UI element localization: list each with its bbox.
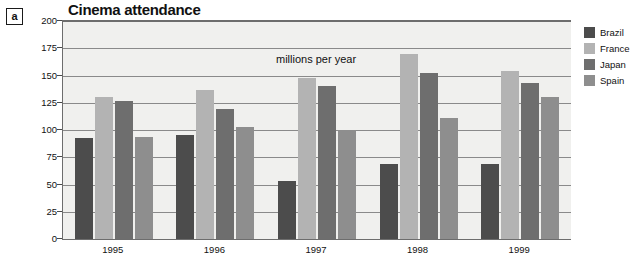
bar <box>420 73 438 239</box>
y-axis-tick-mark <box>57 75 62 76</box>
bar <box>115 101 133 239</box>
bar <box>318 86 336 239</box>
gridline <box>63 103 571 104</box>
bar <box>216 109 234 239</box>
bar <box>400 54 418 239</box>
legend-item-label: Brazil <box>600 27 624 38</box>
legend-swatch-icon <box>584 75 595 86</box>
gridline <box>63 76 571 77</box>
x-axis-group-label: 1998 <box>407 244 428 255</box>
bar <box>298 78 316 239</box>
legend-swatch-icon <box>584 59 595 70</box>
y-axis-tick-mark <box>57 47 62 48</box>
legend-swatch-icon <box>584 27 595 38</box>
legend-item-label: Japan <box>600 59 626 70</box>
bar <box>338 130 356 239</box>
y-axis-tick-label: 0 <box>52 233 57 244</box>
bar <box>501 71 519 239</box>
bar <box>481 164 499 239</box>
gridline <box>63 48 571 49</box>
x-axis-group-label: 1999 <box>509 244 530 255</box>
bar <box>440 118 458 239</box>
legend-swatch-icon <box>584 43 595 54</box>
gridline <box>63 21 571 22</box>
bar <box>75 138 93 239</box>
figure-label: a <box>6 8 23 25</box>
y-axis-tick-mark <box>57 184 62 185</box>
y-axis-tick-label: 100 <box>41 124 57 135</box>
y-axis-tick-label: 75 <box>46 151 57 162</box>
y-axis-tick-label: 50 <box>46 178 57 189</box>
x-axis-group-label: 1996 <box>204 244 225 255</box>
chart-annotation: millions per year <box>276 53 356 65</box>
legend: BrazilFranceJapanSpain <box>584 25 630 89</box>
legend-item-label: France <box>600 43 630 54</box>
y-axis-tick-label: 125 <box>41 96 57 107</box>
y-axis-tick-mark <box>57 102 62 103</box>
bar <box>236 127 254 239</box>
y-axis-tick-mark <box>57 156 62 157</box>
bar <box>541 97 559 239</box>
y-axis-tick-label: 200 <box>41 15 57 26</box>
page-title: Cinema attendance <box>68 1 200 18</box>
legend-item: Spain <box>584 73 630 87</box>
bar <box>521 83 539 239</box>
y-axis-tick-mark <box>57 211 62 212</box>
legend-item: Japan <box>584 57 630 71</box>
legend-item: Brazil <box>584 25 630 39</box>
bar <box>278 181 296 239</box>
x-axis-group-label: 1997 <box>305 244 326 255</box>
bar <box>196 90 214 239</box>
y-axis-tick-mark <box>57 238 62 239</box>
bar <box>95 97 113 239</box>
y-axis-tick-mark <box>57 129 62 130</box>
bar <box>135 137 153 239</box>
y-axis-tick-label: 175 <box>41 42 57 53</box>
legend-item-label: Spain <box>600 75 624 86</box>
bar <box>380 164 398 239</box>
y-axis-tick-label: 150 <box>41 69 57 80</box>
y-axis-tick-mark <box>57 20 62 21</box>
chart-figure: a Cinema attendance 02550751001251501752… <box>0 0 635 268</box>
y-axis-tick-label: 25 <box>46 205 57 216</box>
bar <box>176 135 194 239</box>
gridline <box>63 130 571 131</box>
x-axis-group-label: 1995 <box>102 244 123 255</box>
legend-item: France <box>584 41 630 55</box>
